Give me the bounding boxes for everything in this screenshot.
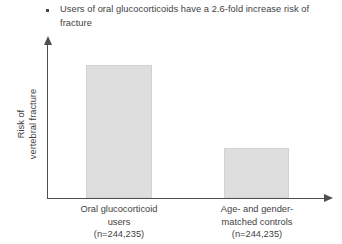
x-axis-category-label-0: Oral glucocorticoid users (n=244,235): [59, 203, 179, 241]
category-label-0-line-1: Oral glucocorticoid: [59, 203, 179, 216]
bar-chart: Risk of vertebral fracture Oral glucocor…: [0, 0, 342, 244]
x-axis-category-label-1: Age- and gender- matched controls (n=244…: [197, 203, 317, 241]
y-axis-line: [47, 44, 48, 199]
bar-oral-glucocorticoid-users: [86, 65, 152, 198]
category-label-0-sample-size: (n=244,235): [59, 228, 179, 241]
y-axis-title-line-2: vertebral fracture: [27, 64, 39, 184]
category-label-1-line-2: matched controls: [197, 216, 317, 229]
category-label-0-line-2: users: [59, 216, 179, 229]
category-label-1-line-1: Age- and gender-: [197, 203, 317, 216]
y-axis-title: Risk of vertebral fracture: [15, 64, 39, 184]
bar-matched-controls: [224, 148, 289, 198]
category-label-1-sample-size: (n=244,235): [197, 228, 317, 241]
y-axis-arrowhead-icon: [44, 36, 52, 45]
y-axis-title-line-1: Risk of: [15, 64, 27, 184]
x-axis-arrowhead-icon: [324, 194, 333, 202]
